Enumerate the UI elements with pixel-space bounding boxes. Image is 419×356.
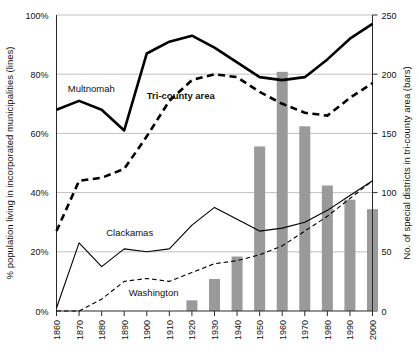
x-axis-tick-label: 1870	[75, 320, 85, 340]
x-axis-tick-label: 1860	[52, 320, 62, 340]
bar-special-districts	[322, 185, 333, 311]
y2-axis-tick-label: 200	[382, 70, 397, 80]
y-axis-tick-label: 60%	[30, 129, 48, 139]
x-axis-tick-label: 1950	[255, 320, 265, 340]
x-axis-tick-label: 1990	[345, 320, 355, 340]
y-axis-title: % population living in incorporated muni…	[4, 47, 15, 280]
x-axis-tick-label: 1890	[120, 320, 130, 340]
x-axis-tick-label: 1920	[187, 320, 197, 340]
y2-axis-tick-label: 50	[382, 247, 392, 257]
x-axis-tick-label: 2000	[368, 320, 378, 340]
x-axis-tick-label: 1960	[278, 320, 288, 340]
y-axis-tick-label: 20%	[30, 247, 48, 257]
series-label-washington: Washington	[129, 287, 179, 298]
series-label-tri-county-area: Tri-county area	[147, 90, 216, 101]
y2-axis-tick-label: 100	[382, 188, 397, 198]
series-label-clackamas: Clackamas	[106, 227, 153, 238]
y2-axis-tick-label: 0	[382, 307, 387, 317]
chart-container: 0%20%40%60%80%100%0501001502002501860187…	[0, 0, 419, 356]
y-axis-tick-label: 100%	[25, 11, 48, 21]
bar-special-districts	[232, 257, 243, 311]
series-label-multnomah: Multnomah	[68, 83, 115, 94]
x-axis-tick-label: 1930	[210, 320, 220, 340]
x-axis-tick-label: 1900	[142, 320, 152, 340]
y2-axis-tick-label: 250	[382, 11, 397, 21]
bar-special-districts	[299, 126, 310, 311]
bar-special-districts	[209, 279, 220, 311]
x-axis-tick-label: 1980	[323, 320, 333, 340]
y-axis-tick-label: 0%	[35, 307, 48, 317]
bar-special-districts	[277, 72, 288, 311]
y-axis-tick-label: 80%	[30, 70, 48, 80]
x-axis-tick-label: 1910	[165, 320, 175, 340]
x-axis-tick-label: 1880	[97, 320, 107, 340]
y-axis-tick-label: 40%	[30, 188, 48, 198]
bar-special-districts	[344, 200, 355, 311]
y2-axis-tick-label: 150	[382, 129, 397, 139]
x-axis-tick-label: 1940	[233, 320, 243, 340]
x-axis-tick-label: 1970	[300, 320, 310, 340]
y2-axis-title: No. of special districts in tri-county a…	[401, 66, 412, 259]
population-districts-chart: 0%20%40%60%80%100%0501001502002501860187…	[0, 0, 419, 356]
bar-special-districts	[186, 300, 197, 311]
